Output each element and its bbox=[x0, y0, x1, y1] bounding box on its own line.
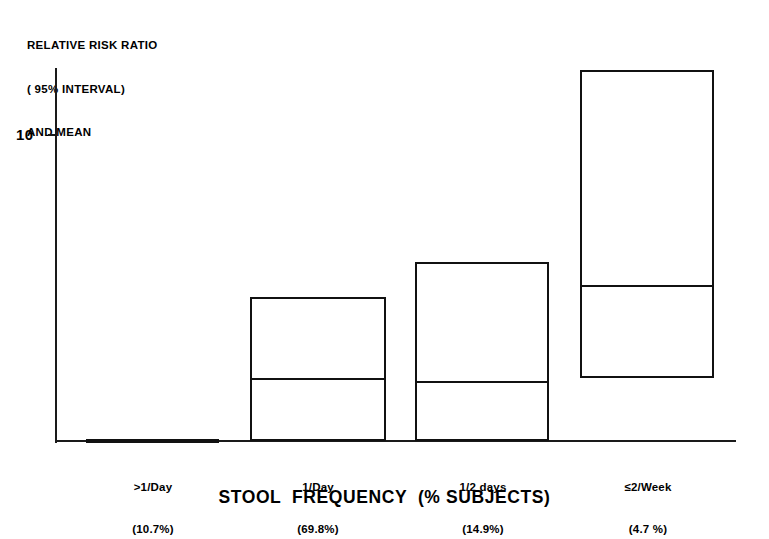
mean-line-1-2days bbox=[415, 381, 549, 383]
box-interval-2week bbox=[580, 70, 714, 378]
y-axis-caption-line-1: RELATIVE RISK RATIO bbox=[27, 38, 158, 53]
y-axis-caption: RELATIVE RISK RATIO ( 95% INTERVAL) AND … bbox=[27, 9, 158, 169]
y-axis-line bbox=[55, 68, 57, 443]
category-label-1-2days-percent: (14.9%) bbox=[412, 522, 554, 536]
category-label-2week-percent: (4.7 %) bbox=[577, 522, 719, 536]
y-axis-caption-line-3: AND MEAN bbox=[27, 125, 158, 140]
category-label-1day-percent: (69.8%) bbox=[247, 522, 389, 536]
box-reference-gt1day bbox=[86, 439, 219, 443]
box-interval-1day bbox=[250, 297, 386, 441]
x-axis-title: STOOL FREQUENCY (% SUBJECTS) bbox=[0, 487, 769, 508]
y-axis-tick-10 bbox=[48, 134, 57, 136]
box-interval-1-2days bbox=[415, 262, 549, 441]
mean-line-2week bbox=[580, 285, 714, 287]
category-label-gt1day-percent: (10.7%) bbox=[82, 522, 224, 536]
y-axis-tick-label-10: 10 bbox=[16, 126, 34, 143]
y-axis-caption-line-2: ( 95% INTERVAL) bbox=[27, 82, 158, 97]
mean-line-1day bbox=[250, 378, 386, 380]
